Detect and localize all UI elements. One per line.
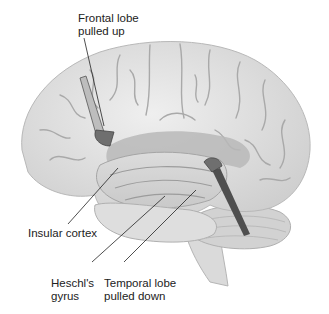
label-heschls-gyrus: Heschl's gyrus [51, 277, 94, 303]
label-temporal-lobe: Temporal lobe pulled down [104, 277, 176, 303]
brain-diagram [0, 0, 329, 314]
label-insular-cortex: Insular cortex [28, 227, 97, 240]
label-frontal-lobe: Frontal lobe pulled up [78, 12, 139, 38]
